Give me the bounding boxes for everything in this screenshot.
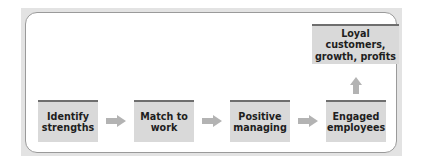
step-label: Identify strengths	[42, 111, 94, 134]
step-engaged-employees: Engaged employees	[326, 100, 386, 142]
outcome-label: Loyal customers, growth, profits	[312, 28, 399, 63]
step-label: Match to work	[140, 111, 188, 134]
arrow-up-icon	[350, 77, 362, 94]
outcome-loyal-customers: Loyal customers, growth, profits	[312, 24, 399, 64]
step-identify-strengths: Identify strengths	[38, 100, 98, 142]
arrow-right-icon	[202, 115, 222, 127]
step-match-to-work: Match to work	[134, 100, 194, 142]
step-label: Positive managing	[233, 111, 287, 134]
arrow-right-icon	[298, 115, 318, 127]
arrow-right-icon	[106, 115, 126, 127]
step-positive-managing: Positive managing	[230, 100, 290, 142]
step-label: Engaged employees	[327, 111, 385, 134]
